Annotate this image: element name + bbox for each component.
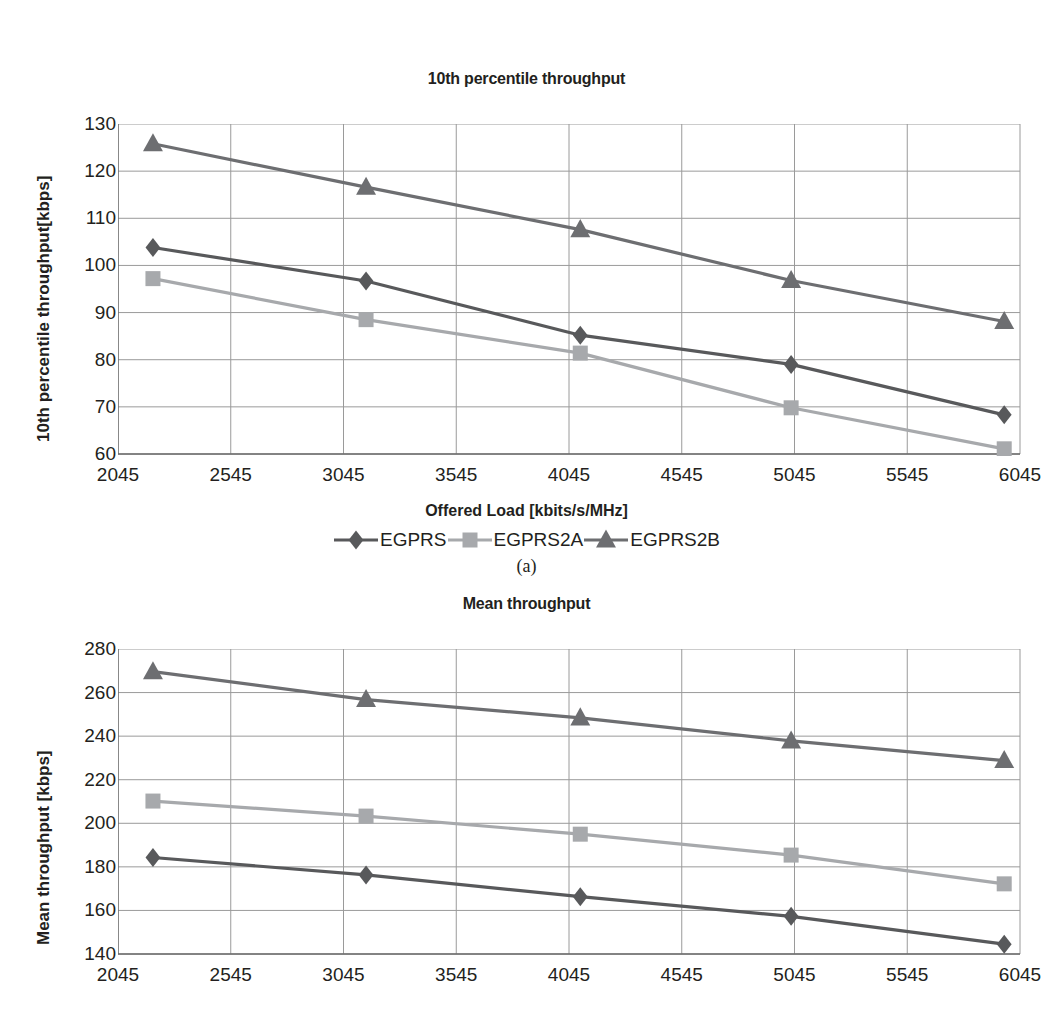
x-tick-label: 5545 [886, 964, 928, 986]
square-marker [784, 848, 799, 863]
x-tick-label: 3545 [435, 464, 477, 486]
chart-10th-percentile-throughput: 10th percentile throughput 10th percenti… [0, 70, 1053, 530]
y-tick-label: 160 [84, 899, 116, 921]
legend-item-egprs2b: EGPRS2B [583, 528, 720, 551]
diamond-marker [784, 907, 799, 926]
diamond-marker [146, 848, 161, 867]
chart-mean-throughput: Mean throughput Mean throughput [kbps] 1… [0, 595, 1053, 1009]
diamond-marker [349, 531, 364, 550]
square-marker [573, 346, 588, 361]
square-marker [997, 441, 1012, 456]
y-tick-label: 200 [84, 812, 116, 834]
y-tick-label: 60 [95, 443, 116, 465]
figure-caption-a: (a) [0, 556, 1053, 577]
x-tick-label: 3545 [435, 964, 477, 986]
triangle-marker [143, 133, 163, 151]
chart-b-y-tick-labels: 140160180200220240260280 [58, 649, 116, 954]
diamond-marker [997, 405, 1012, 424]
legend-label: EGPRS2A [493, 529, 584, 551]
square-marker [145, 794, 160, 809]
square-marker [997, 876, 1012, 891]
square-marker [462, 533, 477, 548]
x-tick-label: 5045 [773, 464, 815, 486]
chart-a-legend: EGPRSEGPRS2AEGPRS2B [0, 528, 1053, 551]
y-tick-label: 280 [84, 638, 116, 660]
x-tick-label: 2045 [97, 964, 139, 986]
y-tick-label: 70 [95, 396, 116, 418]
y-tick-label: 120 [84, 160, 116, 182]
series-line-egprs2a [153, 279, 1004, 449]
y-tick-label: 90 [95, 302, 116, 324]
y-tick-label: 180 [84, 856, 116, 878]
square-marker [145, 271, 160, 286]
x-tick-label: 4545 [661, 964, 703, 986]
y-tick-label: 140 [84, 943, 116, 965]
y-tick-label: 80 [95, 349, 116, 371]
square-marker [784, 400, 799, 415]
x-tick-label: 6045 [999, 464, 1041, 486]
chart-b-title: Mean throughput [0, 595, 1053, 613]
y-tick-label: 100 [84, 254, 116, 276]
chart-a-y-tick-labels: 60708090100110120130 [58, 124, 116, 454]
legend-label: EGPRS [379, 529, 447, 551]
y-tick-label: 110 [86, 207, 116, 229]
series-line-egprs2a [153, 801, 1004, 884]
chart-a-plot-area: 10th percentile throughput[kbps] 6070809… [0, 102, 1053, 502]
y-tick-label: 220 [84, 769, 116, 791]
x-tick-label: 2545 [210, 464, 252, 486]
chart-b-y-axis-title: Mean throughput [kbps] [34, 750, 54, 945]
x-tick-label: 5045 [773, 964, 815, 986]
legend-label: EGPRS2B [629, 529, 720, 551]
x-tick-label: 3045 [322, 464, 364, 486]
legend-diamond-marker [333, 529, 379, 551]
x-tick-label: 5545 [886, 464, 928, 486]
y-tick-label: 130 [84, 113, 116, 135]
x-tick-label: 6045 [999, 964, 1041, 986]
chart-a-title: 10th percentile throughput [0, 70, 1053, 88]
chart-a-y-axis-title: 10th percentile throughput[kbps] [34, 176, 54, 442]
y-tick-label: 240 [84, 725, 116, 747]
x-tick-label: 4045 [548, 464, 590, 486]
legend-square-marker [447, 529, 493, 551]
legend-item-egprs: EGPRS [333, 528, 447, 551]
triangle-marker [143, 661, 163, 679]
diamond-marker [573, 326, 588, 345]
square-marker [359, 312, 374, 327]
figure-root: 10th percentile throughput 10th percenti… [0, 0, 1053, 1009]
x-tick-label: 4545 [661, 464, 703, 486]
x-tick-label: 3045 [322, 964, 364, 986]
legend-item-egprs2a: EGPRS2A [447, 528, 584, 551]
square-marker [573, 827, 588, 842]
x-tick-label: 2045 [97, 464, 139, 486]
chart-a-svg [118, 124, 1022, 456]
legend-triangle-marker [583, 529, 629, 551]
diamond-marker [784, 355, 799, 374]
x-tick-label: 4045 [548, 964, 590, 986]
square-marker [359, 809, 374, 824]
chart-a-x-axis-title: Offered Load [kbits/s/MHz] [0, 502, 1053, 520]
diamond-marker [359, 865, 374, 884]
diamond-marker [359, 271, 374, 290]
diamond-marker [573, 887, 588, 906]
diamond-marker [146, 238, 161, 257]
chart-b-svg [118, 649, 1022, 956]
diamond-marker [997, 935, 1012, 954]
x-tick-label: 2545 [210, 964, 252, 986]
chart-b-plot-area: Mean throughput [kbps] 14016018020022024… [0, 627, 1053, 987]
y-tick-label: 260 [84, 682, 116, 704]
